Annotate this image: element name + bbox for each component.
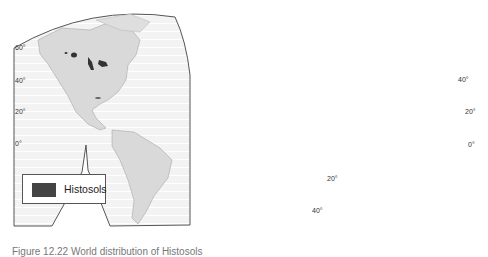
lat-label-20: 20° — [15, 108, 26, 115]
lat-label-0: 0° — [15, 140, 22, 147]
lat-label-0-right: 0° — [468, 141, 475, 148]
lat-label-40-right: 40° — [458, 76, 469, 83]
legend: Histosols — [22, 174, 106, 204]
legend-label-histosols: Histosols — [64, 183, 107, 195]
histosols-swatch — [32, 183, 56, 197]
lat-label-60: 60° — [15, 44, 26, 51]
lat-label-40: 40° — [15, 77, 26, 84]
lat-label-20-right: 20° — [465, 108, 476, 115]
lat-label-20-south: 20° — [327, 175, 338, 182]
figure-caption: Figure 12.22 World distribution of Histo… — [12, 246, 202, 257]
lat-label-40-south: 40° — [312, 207, 323, 214]
